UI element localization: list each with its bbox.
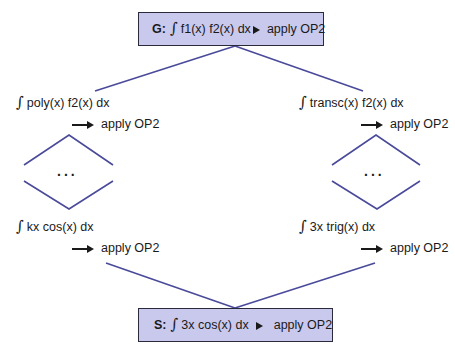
integral-icon: ∫ xyxy=(171,315,179,333)
edge-top-to-right xyxy=(235,46,363,91)
integral-icon: ∫ xyxy=(170,19,178,37)
right-upper-node: ∫ transc(x) f2(x) dx apply OP2 xyxy=(299,94,448,131)
right-diamond-upper xyxy=(332,135,420,165)
edge-right-to-bottom xyxy=(235,263,375,308)
node-expression: transc(x) f2(x) dx xyxy=(310,96,404,110)
integral-icon: ∫ xyxy=(16,93,24,111)
node-action: apply OP2 xyxy=(390,241,448,255)
left-diamond-upper xyxy=(24,135,113,165)
right-lower-node: ∫ 3x trig(x) dx apply OP2 xyxy=(299,218,448,255)
goal-tag: G: xyxy=(152,22,166,36)
goal-action: apply OP2 xyxy=(267,22,325,36)
solution-action: apply OP2 xyxy=(274,318,332,332)
node-expression: 3x trig(x) dx xyxy=(310,220,375,234)
right-ellipsis: ... xyxy=(364,163,385,179)
left-ellipsis: ... xyxy=(57,163,78,179)
left-upper-node: ∫ poly(x) f2(x) dx apply OP2 xyxy=(16,94,159,131)
goal-expression: f1(x) f2(x) dx xyxy=(181,22,251,36)
edge-top-to-left xyxy=(95,46,235,91)
node-expression: kx cos(x) dx xyxy=(27,220,94,234)
solution-tag: S: xyxy=(154,318,167,332)
solution-box: S: ∫ 3x cos(x) dx apply OP2 xyxy=(138,308,333,342)
solution-expression: 3x cos(x) dx xyxy=(181,318,248,332)
integral-icon: ∫ xyxy=(299,93,307,111)
goal-box: G: ∫ f1(x) f2(x) dx apply OP2 xyxy=(138,12,324,46)
edge-left-to-bottom xyxy=(106,263,235,308)
arrow-right-icon xyxy=(361,243,383,253)
node-action: apply OP2 xyxy=(390,117,448,131)
node-expression: poly(x) f2(x) dx xyxy=(27,96,110,110)
node-action: apply OP2 xyxy=(101,241,159,255)
integral-icon: ∫ xyxy=(16,217,24,235)
node-action: apply OP2 xyxy=(101,117,159,131)
left-lower-node: ∫ kx cos(x) dx apply OP2 xyxy=(16,218,159,255)
integral-icon: ∫ xyxy=(299,217,307,235)
right-diamond-lower xyxy=(332,181,420,209)
arrow-right-icon xyxy=(72,119,94,129)
arrow-right-icon xyxy=(72,243,94,253)
left-diamond-lower xyxy=(24,181,113,209)
arrow-right-icon xyxy=(361,119,383,129)
